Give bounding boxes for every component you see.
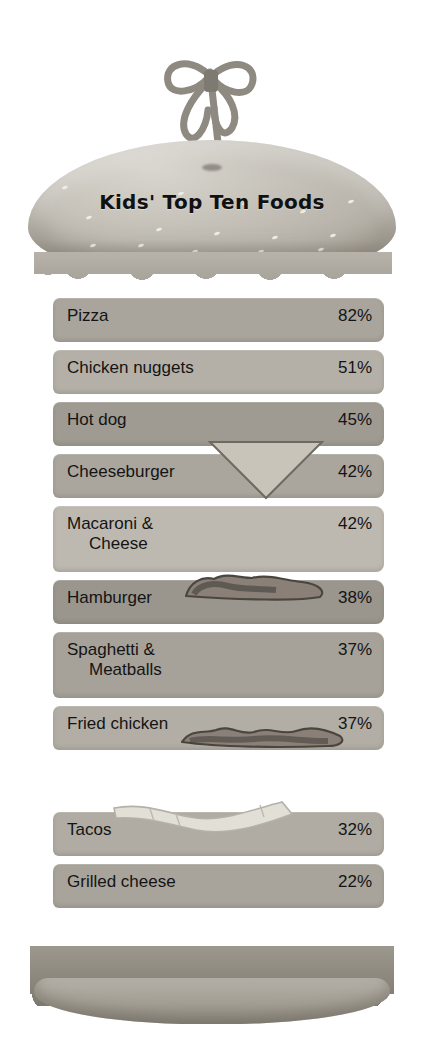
food-label: Hamburger xyxy=(67,580,152,608)
food-percentage: 82% xyxy=(338,298,372,326)
food-percentage: 38% xyxy=(338,580,372,608)
lettuce-frill-top xyxy=(34,252,392,298)
food-label: Grilled cheese xyxy=(67,864,176,892)
food-row[interactable]: Macaroni &Cheese42% xyxy=(53,506,384,572)
food-label-line1: Fried chicken xyxy=(67,714,168,733)
food-percentage: 42% xyxy=(338,454,372,482)
food-label-line1: Chicken nuggets xyxy=(67,358,194,377)
food-row[interactable]: Pizza82% xyxy=(53,298,384,342)
food-percentage: 37% xyxy=(338,706,372,734)
food-label: Hot dog xyxy=(67,402,127,430)
food-percentage: 22% xyxy=(338,864,372,892)
food-label-line1: Tacos xyxy=(67,820,111,839)
bottom-bun xyxy=(34,978,390,1024)
food-label-line1: Pizza xyxy=(67,306,109,325)
food-label: Cheeseburger xyxy=(67,454,175,482)
food-percentage: 51% xyxy=(338,350,372,378)
food-label: Chicken nuggets xyxy=(67,350,194,378)
food-row[interactable]: Tacos32% xyxy=(53,812,384,856)
food-percentage: 42% xyxy=(338,506,372,534)
food-label: Tacos xyxy=(67,812,111,840)
food-row[interactable]: Grilled cheese22% xyxy=(53,864,384,908)
food-label-line1: Hamburger xyxy=(67,588,152,607)
food-label: Macaroni &Cheese xyxy=(67,506,153,553)
infographic-canvas: Kids' Top Ten Foods Pizza82%Chicken nugg… xyxy=(0,0,424,1040)
food-percentage: 32% xyxy=(338,812,372,840)
food-label: Spaghetti &Meatballs xyxy=(67,632,162,679)
page-title: Kids' Top Ten Foods xyxy=(0,190,424,214)
food-percentage: 45% xyxy=(338,402,372,430)
food-row[interactable]: Fried chicken37% xyxy=(53,706,384,750)
food-label-line1: Grilled cheese xyxy=(67,872,176,891)
food-label: Pizza xyxy=(67,298,109,326)
food-label-line1: Hot dog xyxy=(67,410,127,429)
food-percentage: 37% xyxy=(338,632,372,660)
food-label-line1: Spaghetti & xyxy=(67,640,155,659)
food-label-line1: Cheeseburger xyxy=(67,462,175,481)
food-label-line1: Macaroni & xyxy=(67,514,153,533)
food-row[interactable]: Spaghetti &Meatballs37% xyxy=(53,632,384,698)
food-label-line2: Meatballs xyxy=(67,660,162,680)
food-row[interactable]: Hamburger38% xyxy=(53,580,384,624)
food-row[interactable]: Cheeseburger42% xyxy=(53,454,384,498)
food-label-line2: Cheese xyxy=(67,534,153,554)
food-row[interactable]: Chicken nuggets51% xyxy=(53,350,384,394)
food-row[interactable]: Hot dog45% xyxy=(53,402,384,446)
food-label: Fried chicken xyxy=(67,706,168,734)
